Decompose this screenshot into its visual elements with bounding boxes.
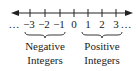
tick-label: 3 [113,18,119,30]
positive-brace [82,32,122,38]
number-line-diagram: … −3 −2 −1 0 1 2 3 … Negative Integers P… [0,0,140,71]
tick-label: −1 [53,18,65,30]
right-arrow-icon [125,10,133,16]
left-ellipsis: … [9,18,20,30]
tick-label: −3 [23,18,35,30]
tick-label: 2 [99,18,105,30]
left-arrow-icon [11,10,19,16]
tick-label: −2 [38,18,50,30]
negative-brace [25,32,65,38]
right-ellipsis: … [121,18,132,30]
tick-label: 0 [71,18,77,30]
negative-caption-line2: Integers [27,54,62,66]
positive-caption-line2: Integers [84,54,119,66]
positive-caption-line1: Positive [84,40,120,52]
negative-caption-line1: Negative [25,40,65,52]
tick-label: 1 [85,18,91,30]
